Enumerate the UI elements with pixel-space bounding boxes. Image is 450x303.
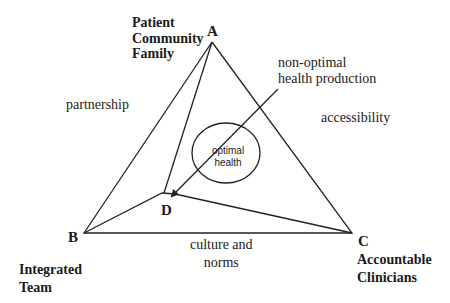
arrow-label-line-2: health production — [278, 71, 376, 87]
non-optimal-arrow — [172, 89, 278, 196]
vertex-a-line-1: Patient — [132, 15, 204, 31]
vertex-b-label: B — [68, 229, 78, 246]
edge-bc-line-1: culture and — [190, 236, 253, 254]
arrow-label-line-1: non-optimal — [278, 55, 376, 71]
edge-ab-label: partnership — [66, 97, 129, 113]
vertex-c-line-1: Accountable — [357, 251, 432, 269]
vertex-a-line-3: Family — [132, 46, 204, 62]
optimal-health-line-2: health — [207, 157, 249, 169]
optimal-health-line-1: optimal — [207, 145, 249, 157]
edge-bc-label: culture and norms — [190, 236, 253, 271]
line-a-to-d — [164, 42, 212, 193]
vertex-b-line-1: Integrated — [19, 261, 82, 279]
vertex-c-description: Accountable Clinicians — [357, 251, 432, 286]
vertex-c-label: C — [358, 233, 369, 250]
vertex-c-line-2: Clinicians — [357, 269, 432, 287]
optimal-health-label: optimal health — [207, 145, 249, 169]
vertex-a-description: Patient Community Family — [132, 15, 204, 62]
edge-bc-line-2: norms — [190, 254, 253, 272]
vertex-b-description: Integrated Team — [19, 261, 82, 296]
vertex-d-label: D — [161, 202, 172, 219]
health-triangle-diagram: A Patient Community Family B Integrated … — [0, 0, 450, 303]
vertex-a-label: A — [207, 23, 218, 40]
edge-ac-label: accessibility — [321, 110, 390, 126]
vertex-b-line-2: Team — [19, 279, 82, 297]
vertex-a-line-2: Community — [132, 31, 204, 47]
line-b-to-d-to-c — [84, 193, 352, 233]
arrow-label: non-optimal health production — [278, 55, 376, 86]
